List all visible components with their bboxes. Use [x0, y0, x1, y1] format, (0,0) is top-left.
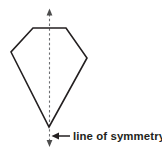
symmetry-arrow-down-icon	[47, 140, 53, 147]
callout-arrow-left-icon	[52, 132, 60, 139]
line-of-symmetry-label: line of symmetry	[73, 130, 162, 142]
diagram-canvas: line of symmetry	[0, 0, 162, 150]
callout-arrow-group	[52, 132, 71, 139]
symmetry-arrow-up-icon	[47, 9, 53, 16]
symmetry-diagram: line of symmetry	[0, 0, 162, 150]
